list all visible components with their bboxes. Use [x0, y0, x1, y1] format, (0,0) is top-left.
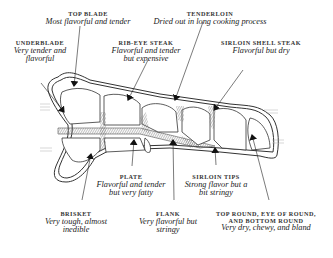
label-round: TOP ROUND, EYE OF ROUND, AND BOTTOM ROUN…: [206, 211, 326, 233]
label-flank: FLANK Very flavorful but stringy: [128, 211, 208, 235]
label-tenderloin: TENDERLOIN Dried out in long cooking pro…: [140, 11, 280, 26]
label-sirloin-tips: SIRLOIN TIPS Strong flavor but a bit str…: [175, 174, 257, 198]
label-top-blade: TOP BLADE Most flavorful and tender: [38, 11, 138, 26]
label-desc: but very fatty: [86, 189, 176, 198]
label-plate: PLATE Flavorful and tender but very fatt…: [86, 174, 176, 198]
label-desc: Most flavorful and tender: [38, 18, 138, 27]
label-desc: bit stringy: [175, 189, 257, 198]
muscle-sections: [60, 88, 270, 162]
label-desc: but expensive: [105, 55, 187, 64]
label-brisket: BRISKET Very tough, almost inedible: [38, 211, 114, 235]
label-desc: stringy: [128, 226, 208, 235]
label-desc: inedible: [38, 226, 114, 235]
label-desc: Flavorful but dry: [206, 47, 316, 56]
label-desc: Dried out in long cooking process: [140, 18, 280, 27]
label-desc: Very dry, chewy, and bland: [206, 224, 326, 233]
label-rib-eye: RIB-EYE STEAK Flavorful and tender but e…: [105, 40, 187, 64]
label-sirloin-shell: SIRLOIN SHELL STEAK Flavorful but dry: [206, 40, 316, 55]
label-underblade: UNDERBLADE Very tender and flavorful: [6, 40, 74, 64]
label-desc: flavorful: [6, 55, 74, 64]
